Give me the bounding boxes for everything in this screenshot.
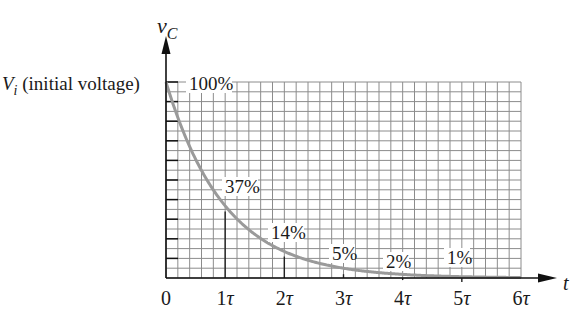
- x-tick-label: 2τ: [276, 287, 294, 309]
- initial-voltage-label: Vi (initial voltage): [2, 73, 140, 98]
- percent-annotation: 37%: [225, 176, 260, 197]
- percent-annotation: 5%: [332, 243, 358, 264]
- x-tick-label: 5τ: [453, 287, 471, 309]
- x-tick-label: 0: [161, 287, 171, 309]
- x-tick-label: 1τ: [217, 287, 235, 309]
- y-axis-label: vC: [157, 13, 178, 42]
- rc-discharge-chart: 100%37%14%5%2%1% vC t Vi (initial voltag…: [0, 0, 571, 317]
- percent-annotations: 100%37%14%5%2%1%: [186, 73, 473, 272]
- percent-annotation: 100%: [189, 73, 234, 94]
- x-tick-label: 3τ: [335, 287, 353, 309]
- percent-annotation: 2%: [386, 251, 412, 272]
- x-axis-label: t: [563, 272, 569, 294]
- percent-annotation: 14%: [271, 222, 306, 243]
- x-tick-label: 6τ: [512, 287, 530, 309]
- percent-annotation: 1%: [447, 247, 473, 268]
- x-axis-arrow-icon: [538, 274, 557, 283]
- x-tick-labels: 01τ2τ3τ4τ5τ6τ: [161, 287, 530, 309]
- x-tick-label: 4τ: [394, 287, 412, 309]
